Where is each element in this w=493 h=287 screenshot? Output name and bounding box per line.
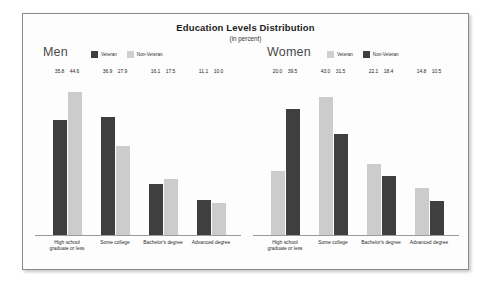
bar-group-men-4: 11.1 10.0 (187, 75, 235, 235)
bar-men-veteran-3[interactable]: 16.1 (149, 75, 163, 235)
bar-rect (101, 117, 115, 235)
legend-label-men-non-veteran: Non-Veteran (137, 52, 163, 57)
bar-rect (197, 200, 211, 236)
bar-value: 11.1 (199, 68, 208, 74)
legend-women: Veteran Non-Veteran (327, 51, 399, 58)
bar-value: 36.9 (103, 68, 113, 74)
bar-rect (53, 120, 67, 235)
bar-men-non-veteran-4[interactable]: 10.0 (212, 75, 226, 235)
bar-rect (149, 184, 163, 236)
bar-men-non-veteran-1[interactable]: 44.6 (68, 75, 82, 235)
axis-baseline (35, 235, 241, 236)
bar-rect (212, 203, 226, 235)
legend-label-women-veteran: Veteran (337, 52, 353, 57)
bar-rect (334, 134, 348, 235)
bar-rect (271, 171, 285, 235)
bar-group-women-2: 43.0 31.5 (309, 75, 357, 235)
panel-men-title: Men (43, 45, 68, 59)
plot-area-men: 35.8 44.6 36.9 (29, 70, 245, 236)
bar-rect (415, 188, 429, 235)
chart-frame: Education Levels Distribution (in percen… (22, 13, 469, 270)
title-block: Education Levels Distribution (in percen… (23, 22, 468, 43)
bar-women-veteran-1[interactable]: 20.0 (271, 75, 285, 235)
legend-label-men-veteran: Veteran (101, 52, 117, 57)
bar-women-veteran-4[interactable]: 14.8 (415, 75, 429, 235)
bar-rect (367, 164, 381, 235)
panel-women: Women Veteran Non-Veteran (247, 44, 463, 266)
legend-swatch-icon (327, 51, 334, 58)
plot-area-women: 20.0 39.5 43.0 (247, 70, 463, 236)
axis-baseline (253, 235, 459, 236)
bar-men-non-veteran-3[interactable]: 17.5 (164, 75, 178, 235)
bar-women-veteran-3[interactable]: 22.1 (367, 75, 381, 235)
bar-rect (286, 109, 300, 235)
bar-women-non-veteran-4[interactable]: 10.5 (430, 75, 444, 235)
category-labels-men: High school graduate or less Some colleg… (29, 240, 245, 266)
legend-swatch-icon (363, 51, 370, 58)
bar-value: 22.1 (369, 68, 379, 74)
bar-men-veteran-4[interactable]: 11.1 (197, 75, 211, 235)
bar-rect (430, 201, 444, 235)
legend-item-women-veteran[interactable]: Veteran (327, 51, 353, 58)
page-background: Education Levels Distribution (in percen… (0, 0, 493, 287)
page-title: Education Levels Distribution (23, 22, 468, 33)
legend-men: Veteran Non-Veteran (91, 51, 163, 58)
bar-value: 14.8 (417, 68, 427, 74)
bar-value: 35.8 (55, 68, 65, 74)
bar-group-women-1: 20.0 39.5 (261, 75, 309, 235)
chart-subtitle: (in percent) (23, 34, 468, 43)
legend-item-men-veteran[interactable]: Veteran (91, 51, 117, 58)
category-label-men-4: Advanced degree (181, 240, 241, 246)
legend-item-women-non-veteran[interactable]: Non-Veteran (363, 51, 399, 58)
legend-swatch-icon (91, 51, 98, 58)
bar-group-women-3: 22.1 18.4 (357, 75, 405, 235)
bar-value: 44.6 (70, 68, 80, 74)
bar-rect (116, 146, 130, 235)
bar-value: 10.0 (214, 68, 224, 74)
bar-rect (164, 179, 178, 235)
bar-value: 16.1 (151, 68, 161, 74)
bar-women-non-veteran-1[interactable]: 39.5 (286, 75, 300, 235)
bar-value: 20.0 (273, 68, 283, 74)
bar-value: 10.5 (432, 68, 442, 74)
bar-women-non-veteran-3[interactable]: 18.4 (382, 75, 396, 235)
category-labels-women: High school graduate or less Some colleg… (247, 240, 463, 266)
panel-men: Men Veteran Non-Veteran (29, 44, 245, 266)
bar-group-men-3: 16.1 17.5 (139, 75, 187, 235)
bar-group-women-4: 14.8 10.5 (405, 75, 453, 235)
bar-women-non-veteran-2[interactable]: 31.5 (334, 75, 348, 235)
bar-value: 18.4 (384, 68, 394, 74)
panel-men-header: Men Veteran Non-Veteran (29, 44, 245, 68)
bar-value: 39.5 (288, 68, 298, 74)
bar-value: 17.5 (166, 68, 176, 74)
bar-group-men-1: 35.8 44.6 (43, 75, 91, 235)
bar-rect (382, 176, 396, 235)
bar-men-veteran-2[interactable]: 36.9 (101, 75, 115, 235)
category-label-women-4: Advanced degree (399, 240, 459, 246)
bar-value: 27.9 (118, 68, 128, 74)
bar-women-veteran-2[interactable]: 43.0 (319, 75, 333, 235)
bar-group-men-2: 36.9 27.9 (91, 75, 139, 235)
bar-value: 43.0 (321, 68, 331, 74)
panel-women-title: Women (267, 45, 311, 59)
panel-women-header: Women Veteran Non-Veteran (247, 44, 463, 68)
legend-item-men-non-veteran[interactable]: Non-Veteran (127, 51, 163, 58)
bar-rect (319, 97, 333, 235)
legend-swatch-icon (127, 51, 134, 58)
legend-label-women-non-veteran: Non-Veteran (373, 52, 399, 57)
bar-men-non-veteran-2[interactable]: 27.9 (116, 75, 130, 235)
bar-men-veteran-1[interactable]: 35.8 (53, 75, 67, 235)
bar-value: 31.5 (336, 68, 346, 74)
bar-rect (68, 92, 82, 235)
